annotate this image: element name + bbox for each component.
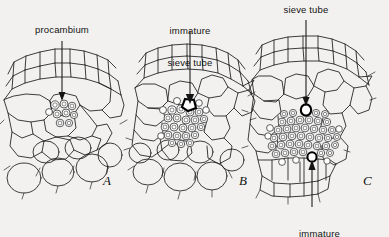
- panel-c-tissue: [242, 36, 376, 204]
- panel-c-procambium-cluster: [265, 109, 343, 165]
- leader-procambium: [59, 41, 66, 101]
- annotation-line-1: immature: [145, 26, 235, 37]
- leader-sieve-tube: [302, 20, 309, 106]
- annotation-line-2: sieve tube: [145, 58, 235, 69]
- panel-letter-b: B: [239, 174, 247, 187]
- panel-letter-a: A: [103, 174, 111, 187]
- leader-immature-xylem-element: [308, 160, 315, 207]
- annotation-label-immature-xylem-element: immature xylem element: [262, 208, 377, 237]
- annotation-line-1: immature: [262, 229, 377, 237]
- annotation-label-procambium: procambium: [12, 25, 112, 36]
- annotation-label-immature-sieve-tube: immature sieve tube: [145, 5, 235, 89]
- panel-letter-c: C: [363, 174, 372, 187]
- annotation-label-sieve-tube: sieve tube: [261, 5, 351, 16]
- figure-root: procambium immature sieve tube sieve tub…: [0, 0, 389, 237]
- panel-c-sieve-tube-cell: [301, 104, 311, 115]
